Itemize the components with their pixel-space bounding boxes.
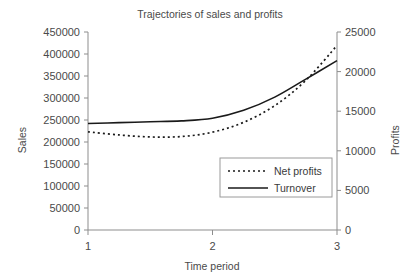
right-tick-label: 5000: [345, 184, 369, 196]
chart-title: Trajectories of sales and profits: [137, 8, 283, 20]
right-tick-label: 20000: [345, 66, 376, 78]
right-tick-label: 25000: [345, 26, 376, 38]
left-tick-label: 50000: [49, 202, 80, 214]
left-tick-label: 200000: [43, 136, 80, 148]
right-tick-label: 10000: [345, 145, 376, 157]
sales-profits-line-chart: Trajectories of sales and profits 050000…: [0, 0, 420, 278]
x-tick-label: 3: [334, 240, 340, 252]
legend-label-net-profits: Net profits: [274, 165, 322, 177]
left-tick-label: 400000: [43, 48, 80, 60]
x-axis-title: Time period: [184, 260, 239, 272]
legend-label-turnover: Turnover: [274, 182, 316, 194]
left-tick-label: 250000: [43, 114, 80, 126]
left-tick-label: 450000: [43, 26, 80, 38]
y-axis-title: Sales: [16, 127, 28, 153]
y2-axis-title: Profits: [389, 125, 401, 155]
left-tick-label: 0: [74, 224, 80, 236]
chart-container: Trajectories of sales and profits 050000…: [0, 0, 420, 278]
right-tick-label: 15000: [345, 105, 376, 117]
left-tick-label: 350000: [43, 70, 80, 82]
x-tick-label: 2: [209, 240, 215, 252]
left-tick-label: 300000: [43, 92, 80, 104]
left-tick-label: 100000: [43, 180, 80, 192]
right-tick-label: 0: [345, 224, 351, 236]
left-tick-label: 150000: [43, 158, 80, 170]
chart-legend: Net profits Turnover: [220, 158, 332, 197]
x-tick-label: 1: [85, 240, 91, 252]
